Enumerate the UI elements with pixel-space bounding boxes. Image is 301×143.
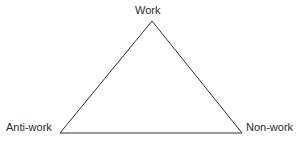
triangle-outline [60,21,242,133]
diagram-canvas: Work Anti-work Non-work [0,0,301,143]
vertex-label-non-work: Non-work [246,121,293,134]
vertex-label-work: Work [135,4,160,17]
vertex-label-anti-work: Anti-work [6,121,52,134]
